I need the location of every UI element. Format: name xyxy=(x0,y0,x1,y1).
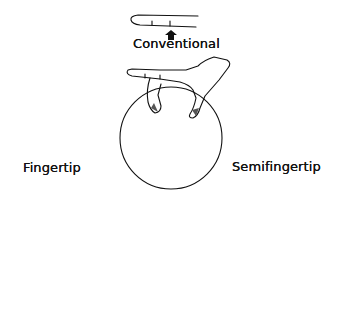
conventional-finger-icon xyxy=(131,15,198,27)
grip-diagram: Conventional Fingertip Semifingertip Con… xyxy=(0,0,360,319)
conventional-label: Conventional xyxy=(133,36,220,51)
fingertip-label: Fingertip xyxy=(23,160,81,175)
semifingertip-label: Semifingertip xyxy=(232,159,321,174)
conventional-ball xyxy=(120,87,222,189)
